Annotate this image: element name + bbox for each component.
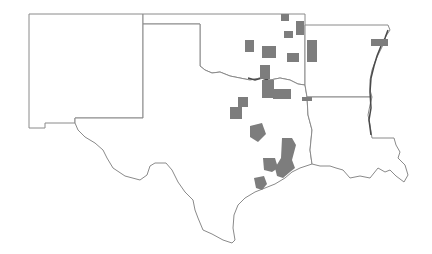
county-ok-5	[262, 46, 276, 58]
county-ok-1	[281, 14, 289, 21]
county-ok-7	[307, 40, 317, 62]
state-louisiana	[307, 97, 408, 182]
state-new-mexico	[29, 14, 143, 128]
county-tx-2	[273, 89, 291, 99]
map	[0, 0, 432, 254]
county-ok-4	[245, 40, 254, 52]
state-arkansas	[305, 25, 390, 97]
county-ok-8	[260, 65, 270, 79]
county-tx-5	[230, 107, 242, 119]
county-ok-3	[284, 31, 293, 38]
county-ar-1	[371, 39, 388, 46]
county-tx-4	[238, 97, 248, 107]
county-tx-3	[302, 97, 312, 101]
county-tx-1	[262, 80, 274, 98]
county-ok-6	[287, 53, 299, 62]
county-ok-2	[296, 21, 304, 35]
